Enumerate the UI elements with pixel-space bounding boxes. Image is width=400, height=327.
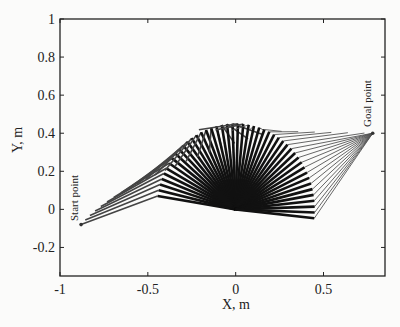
x-tick-label: -0.5 <box>137 282 159 297</box>
link2-segment <box>274 132 315 135</box>
goal-point-marker <box>371 131 375 135</box>
x-tick-label: -1 <box>54 282 66 297</box>
axis-ticks: -1-0.500.5-0.200.20.40.60.81 <box>33 12 385 297</box>
link2-segment <box>264 130 281 132</box>
arm-configurations <box>79 124 374 227</box>
link2-segment <box>209 128 211 152</box>
y-tick-label: 0 <box>48 202 55 217</box>
y-tick-label: 0.4 <box>38 126 56 141</box>
x-axis-label: X, m <box>222 297 250 312</box>
y-tick-label: 0.8 <box>38 50 56 65</box>
y-tick-label: 1 <box>48 12 55 27</box>
x-tick-label: 0.5 <box>315 282 333 297</box>
link2-segment <box>315 133 373 206</box>
x-tick-label: 0 <box>232 282 239 297</box>
y-tick-label: 0.2 <box>38 164 56 179</box>
link2-segment <box>279 132 332 137</box>
link2-segment <box>312 133 372 189</box>
y-tick-label: 0.6 <box>38 88 56 103</box>
link2-segment <box>314 133 372 200</box>
start-point-label: Start point <box>68 175 80 221</box>
start-point-marker <box>79 223 83 227</box>
y-tick-label: -0.2 <box>33 240 55 255</box>
link2-segment <box>90 185 160 216</box>
goal-point-label: Goal point <box>361 80 373 127</box>
link2-segment <box>305 133 373 167</box>
y-axis-label: Y, m <box>10 127 25 153</box>
robot-arm-trajectory-chart: -1-0.500.5-0.200.20.40.60.81 X, m Y, m S… <box>0 0 400 327</box>
